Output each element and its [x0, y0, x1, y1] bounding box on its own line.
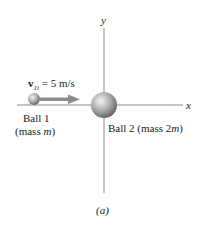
ball-1-name: Ball 1 — [23, 112, 50, 124]
velocity-subscript: 1i — [34, 84, 39, 92]
x-axis-label: x — [186, 99, 191, 111]
ball-1-mass: (mass m) — [15, 125, 55, 137]
velocity-value: = 5 m/s — [42, 77, 75, 89]
velocity-arrow-icon — [40, 95, 80, 105]
y-axis-label: y — [101, 14, 106, 26]
ball-1 — [28, 93, 40, 105]
ball-2 — [91, 92, 117, 118]
figure-caption: (a) — [96, 204, 109, 216]
velocity-label: v1i = 5 m/s — [28, 77, 75, 94]
ball-2-label: Ball 2 (mass 2m) — [108, 122, 183, 134]
